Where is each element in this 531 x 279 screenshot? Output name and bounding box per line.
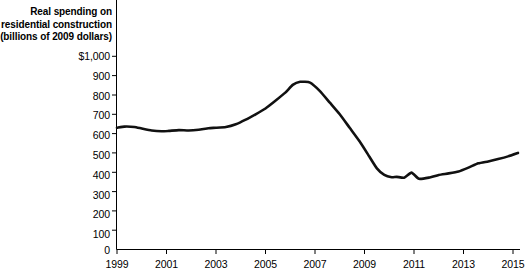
- data-series-line: [117, 82, 518, 179]
- y-tick-label-1000: $1,000: [56, 51, 110, 62]
- y-tick-label-700: 700: [56, 110, 110, 121]
- y-tick-label-0: 0: [56, 245, 110, 256]
- x-tick-label-2013: 2013: [439, 259, 489, 270]
- y-tick-label-500: 500: [56, 150, 110, 161]
- x-tick-label-2005: 2005: [241, 259, 291, 270]
- y-tick-label-400: 400: [56, 170, 110, 181]
- y-axis-title-line-2: residential construction: [0, 19, 112, 32]
- y-tick-label-200: 200: [56, 209, 110, 220]
- x-tick-label-2009: 2009: [340, 259, 390, 270]
- x-tick-marks: [117, 250, 513, 255]
- y-tick-label-600: 600: [56, 130, 110, 141]
- y-axis-title-line-1: Real spending on: [0, 6, 112, 19]
- x-tick-label-2003: 2003: [191, 259, 241, 270]
- y-tick-label-900: 900: [56, 71, 110, 82]
- y-tick-marks: [112, 56, 117, 230]
- y-tick-label-300: 300: [56, 190, 110, 201]
- x-tick-label-2011: 2011: [389, 259, 439, 270]
- chart-figure: Real spending on residential constructio…: [0, 0, 531, 279]
- x-tick-label-2001: 2001: [142, 259, 192, 270]
- y-tick-label-100: 100: [56, 229, 110, 240]
- y-axis-title-line-3: (billions of 2009 dollars): [0, 31, 112, 44]
- y-tick-label-800: 800: [56, 91, 110, 102]
- x-tick-label-2015: 2015: [488, 259, 531, 270]
- x-tick-label-1999: 1999: [92, 259, 142, 270]
- x-tick-label-2007: 2007: [290, 259, 340, 270]
- y-axis-title: Real spending on residential constructio…: [0, 6, 112, 44]
